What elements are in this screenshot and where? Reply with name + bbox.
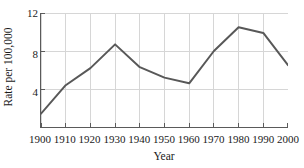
x-tick-label-1930: 1930 — [103, 133, 125, 145]
x-tick-label-1920: 1920 — [79, 133, 101, 145]
x-axis-title: Year — [40, 150, 288, 163]
y-tick-label-12: 12 — [16, 8, 38, 19]
x-tick-label-1960: 1960 — [178, 133, 200, 145]
x-tick-label-1980: 1980 — [227, 133, 249, 145]
x-tick-label-2000: 2000 — [277, 133, 299, 145]
x-tick-label-1910: 1910 — [54, 133, 76, 145]
x-tick-label-1940: 1940 — [128, 133, 150, 145]
x-tick-label-1990: 1990 — [252, 133, 274, 145]
x-tick-label-1970: 1970 — [203, 133, 225, 145]
plot-area — [40, 13, 288, 128]
x-axis-tick-labels: 1900191019201930194019501960197019801990… — [0, 133, 304, 149]
y-tick-label-8: 8 — [16, 49, 38, 60]
y-tick-label-4: 4 — [16, 87, 38, 98]
y-axis-title: Rate per 100,000 — [1, 3, 15, 131]
x-tick-label-1900: 1900 — [29, 133, 51, 145]
data-series-line — [41, 13, 288, 127]
x-tick-label-1950: 1950 — [153, 133, 175, 145]
line-chart-figure: Rate per 100,000 12 8 4 1900191019201930… — [0, 0, 304, 168]
